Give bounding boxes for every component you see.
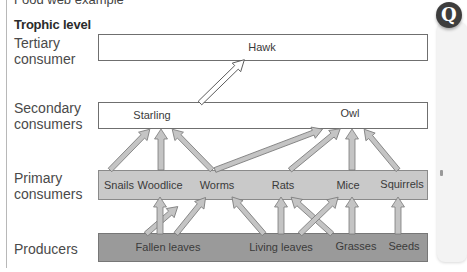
arrow-worms-to-starling <box>168 125 216 174</box>
question-badge-icon: Q <box>436 2 462 28</box>
organism-fallen-leaves: Fallen leaves <box>136 241 201 253</box>
arrow-seeds-to-squirrels <box>392 197 405 234</box>
arrow-fallen-leaves-to-worms <box>171 194 210 238</box>
arrow-snails-to-starling <box>106 125 154 174</box>
organism-hawk: Hawk <box>248 41 276 53</box>
arrow-starling-to-hawk <box>196 55 249 107</box>
organism-owl: Owl <box>341 107 360 119</box>
arrow-living-leaves-to-worms <box>227 193 268 238</box>
organism-woodlice: Woodlice <box>137 179 182 191</box>
organism-starling: Starling <box>133 109 170 121</box>
arrow-mice-to-owl <box>346 129 359 170</box>
panel-edge-mark <box>440 170 443 176</box>
arrow-worms-to-owl <box>213 124 325 176</box>
organism-mice: Mice <box>336 179 359 191</box>
organism-rats: Rats <box>272 179 295 191</box>
organism-snails: Snails <box>104 179 134 191</box>
arrow-grasses-to-mice <box>346 197 359 234</box>
arrow-woodlice-to-starling <box>155 129 168 170</box>
organism-worms: Worms <box>200 179 235 191</box>
arrow-living-leaves-to-rats <box>275 197 288 234</box>
organism-seeds: Seeds <box>388 240 419 252</box>
organism-grasses: Grasses <box>336 240 377 252</box>
arrow-squirrels-to-owl <box>360 125 403 173</box>
question-side-panel <box>437 22 467 262</box>
organism-squirrels: Squirrels <box>380 178 423 190</box>
organism-living-leaves: Living leaves <box>249 241 313 253</box>
